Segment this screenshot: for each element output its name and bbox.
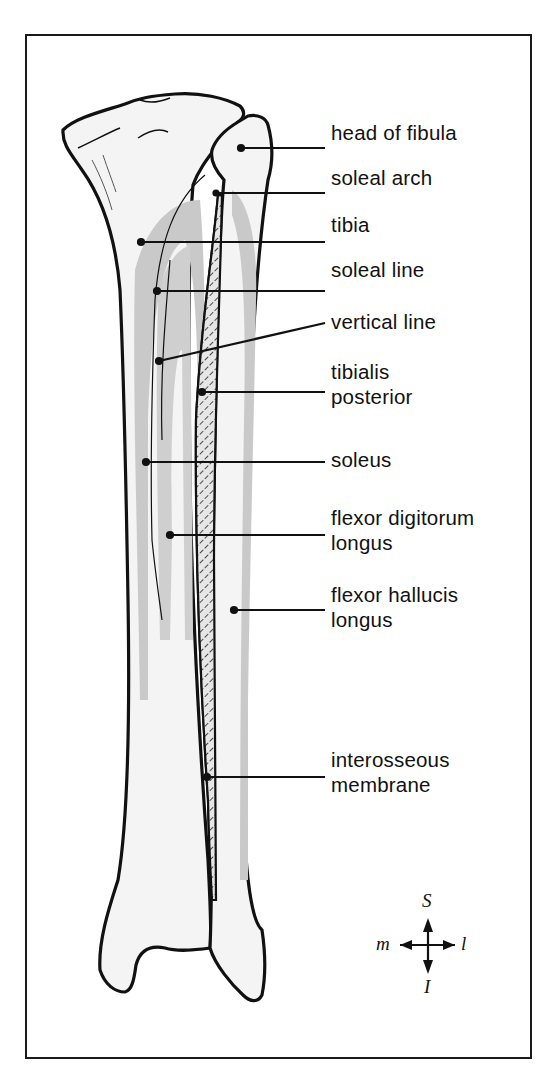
label-flexor-digitorum-2: longus (331, 530, 393, 555)
label-flexor-digitorum-1: flexor digitorum (331, 505, 474, 530)
label-flexor-hallucis-1: flexor hallucis (331, 582, 458, 607)
compass-medial: m (376, 933, 390, 955)
label-tibialis-posterior-1: tibialis (331, 359, 390, 384)
label-interosseous-1: interosseous (331, 747, 450, 772)
compass-superior: S (422, 890, 432, 912)
compass-inferior: I (424, 976, 430, 998)
tibia-fibula-illustration (0, 0, 557, 1090)
label-soleal-line: soleal line (331, 257, 424, 282)
label-tibia: tibia (331, 212, 370, 237)
label-vertical-line: vertical line (331, 309, 436, 334)
label-tibialis-posterior-2: posterior (331, 384, 413, 409)
label-soleus: soleus (331, 447, 391, 472)
label-flexor-hallucis-2: longus (331, 607, 393, 632)
compass-lateral: l (461, 933, 466, 955)
label-head-of-fibula: head of fibula (331, 120, 457, 145)
direction-compass (400, 918, 455, 974)
label-interosseous-2: membrane (331, 772, 431, 797)
label-soleal-arch: soleal arch (331, 165, 432, 190)
